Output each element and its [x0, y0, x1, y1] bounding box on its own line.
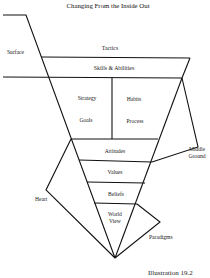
skills-top-line: [41, 57, 190, 58]
skills-right-edge: [182, 58, 190, 78]
layer-process: Process: [126, 118, 143, 124]
values-top-line: [79, 160, 152, 162]
label-paradigms: Paradigms: [149, 234, 173, 240]
funnel-diagram: [0, 0, 210, 278]
layer-attitudes: Attitudes: [105, 148, 126, 154]
label-heart: Heart: [35, 196, 47, 202]
layer-world-view-line2: View: [109, 218, 121, 224]
label-surface: Surface: [7, 49, 24, 55]
layer-beliefs: Beliefs: [108, 191, 124, 197]
label-middle-ground-line2: Ground: [188, 153, 205, 159]
illustration-caption: Illustration 19.2: [148, 269, 193, 277]
heart-bracket: [46, 139, 115, 258]
layer-world-view-line1: World: [108, 211, 122, 217]
layer-skills-abilities: Skills & Abilities: [94, 65, 134, 71]
surface-bottom-line: [3, 77, 182, 78]
layer-strategy: Strategy: [78, 95, 97, 101]
layer-habits: Habits: [127, 96, 142, 102]
beliefs-top-line: [87, 182, 145, 183]
layer-goals: Goals: [79, 117, 92, 123]
worldview-top-line: [94, 203, 137, 204]
layer-values: Values: [108, 169, 123, 175]
layer-tactics: Tactics: [102, 45, 118, 51]
label-middle-ground-line1: Middle: [189, 146, 205, 152]
